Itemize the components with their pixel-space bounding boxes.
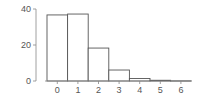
- histogram-chart: 02040 0123456: [0, 0, 198, 103]
- x-axis: 0123456: [45, 81, 191, 95]
- x-tick-label: 1: [75, 85, 80, 95]
- x-tick-label: 4: [137, 85, 142, 95]
- bar-2: [88, 48, 109, 81]
- bar-0: [47, 15, 68, 81]
- x-tick-label: 2: [96, 85, 101, 95]
- y-tick-label: 40: [21, 4, 31, 14]
- x-tick-label: 6: [178, 85, 183, 95]
- bar-3: [109, 70, 130, 81]
- y-tick-label: 20: [21, 40, 31, 50]
- bar-1: [68, 14, 89, 81]
- bars: [47, 14, 191, 81]
- x-tick-label: 3: [117, 85, 122, 95]
- x-tick-label: 5: [158, 85, 163, 95]
- y-axis: 02040: [21, 4, 36, 86]
- x-tick-label: 0: [55, 85, 60, 95]
- y-tick-label: 0: [26, 76, 31, 86]
